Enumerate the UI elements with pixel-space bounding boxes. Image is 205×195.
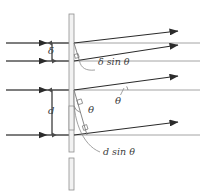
outgoing-ray-3 <box>74 76 178 90</box>
outgoing-ray-4 <box>74 122 178 135</box>
d-path-difference <box>74 90 100 152</box>
barrier-slit-block <box>69 106 74 130</box>
delta-path-difference <box>74 43 95 70</box>
d-label: d <box>48 106 54 116</box>
theta-lower-label: θ <box>88 105 94 115</box>
d-sin-theta-label: d sin θ <box>103 147 135 157</box>
outgoing-rays <box>74 31 178 135</box>
delta-label: δ <box>48 46 54 56</box>
theta-ray-angle-marker <box>121 86 129 95</box>
theta-upper-label: θ <box>115 96 121 106</box>
incoming-rays <box>6 43 70 135</box>
theta-ray-leader <box>121 88 125 95</box>
barrier-main <box>69 14 74 152</box>
diagram-canvas <box>0 0 205 195</box>
grating-barrier <box>69 14 74 190</box>
diffraction-grating-diagram: δ δ sin θ d d sin θ θ θ <box>0 0 205 195</box>
outgoing-ray-1 <box>74 31 178 43</box>
d-sin-theta-leader <box>74 90 100 152</box>
d-right-angle-marker-upper <box>77 99 83 105</box>
barrier-lower-segment <box>69 158 74 190</box>
delta-sin-theta-label: δ sin θ <box>98 57 130 67</box>
theta-arc-ray <box>127 86 128 90</box>
delta-right-angle-marker <box>74 54 79 59</box>
delta-sin-theta-leader <box>80 61 96 70</box>
